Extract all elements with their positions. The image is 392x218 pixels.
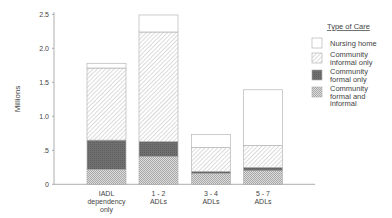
bar-segment-community-formal-and-informal (139, 156, 178, 184)
legend-swatch (312, 38, 322, 48)
bar-segment-community-formal-only (139, 141, 178, 156)
legend-swatch (312, 70, 322, 80)
legend-item: Communityformal only (312, 67, 368, 84)
x-tick-label: 1 - 2ADLs (150, 190, 168, 205)
legend-swatch (312, 53, 322, 63)
y-tick-label: 1.0 (39, 113, 49, 120)
bar-segment-community-informal-only (87, 68, 126, 140)
bar-segment-community-formal-only (87, 140, 126, 169)
x-axis-labels: IADLdependencyonly1 - 2ADLs3 - 4ADLs5 - … (87, 190, 272, 214)
legend-label: Nursing home (330, 39, 377, 48)
bar-stack (87, 63, 126, 184)
legend-item: Communityformal andinformal (312, 84, 368, 108)
bar-segment-community-informal-only (192, 148, 231, 172)
bar-stack (139, 15, 178, 184)
bar-segment-community-formal-and-informal (87, 169, 126, 184)
x-tick-label: 3 - 4ADLs (202, 190, 220, 205)
stacked-bar-chart: 0.51.01.52.02.5 IADLdependencyonly1 - 2A… (0, 0, 392, 218)
legend-title: Type of Care (327, 22, 370, 31)
y-tick-label: 2.0 (39, 45, 49, 52)
bar-stack (244, 90, 283, 185)
x-tick-label: 5 - 7ADLs (254, 190, 272, 205)
legend-label: Communityinformal only (330, 50, 373, 67)
legend-label: Communityformal andinformal (330, 84, 368, 108)
y-tick-label: 2.5 (39, 11, 49, 18)
legend-item: Communityinformal only (312, 50, 373, 67)
legend: Type of Care Nursing homeCommunityinform… (312, 22, 377, 108)
bar-segment-nursing-home (192, 135, 231, 148)
x-tick-label: IADLdependencyonly (87, 190, 126, 214)
legend-item: Nursing home (312, 38, 377, 48)
bar-segment-community-formal-and-informal (192, 173, 231, 184)
bar-segment-nursing-home (87, 63, 126, 68)
legend-swatch (312, 87, 322, 97)
bar-segment-community-informal-only (244, 146, 283, 168)
bar-segment-community-informal-only (139, 32, 178, 141)
bar-segment-community-formal-only (244, 167, 283, 170)
y-tick-label: .5 (43, 147, 49, 154)
bar-segment-nursing-home (139, 15, 178, 32)
legend-label: Communityformal only (330, 67, 368, 84)
bar-stack (192, 135, 231, 185)
bar-segment-community-formal-only (192, 171, 231, 173)
bar-segment-nursing-home (244, 90, 283, 146)
bar-segment-community-formal-and-informal (244, 171, 283, 185)
y-tick-label: 0 (45, 181, 49, 188)
y-tick-label: 1.5 (39, 79, 49, 86)
bars (87, 15, 283, 184)
y-axis-label: Millions (13, 86, 22, 113)
